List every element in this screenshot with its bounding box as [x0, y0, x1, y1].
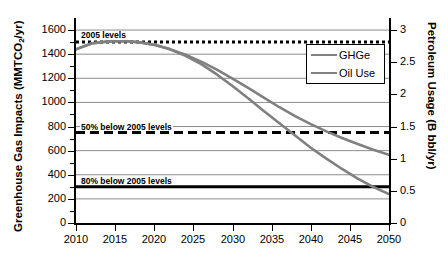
y-axis-left-minor-tick — [70, 211, 74, 212]
y-axis-right-tick — [391, 94, 397, 95]
y-axis-right-tick-label: 0 — [400, 217, 430, 228]
x-axis-tick — [311, 225, 312, 231]
y-axis-left-tick — [68, 102, 74, 103]
y-axis-right-tick-label: 1 — [400, 153, 430, 164]
y-axis-left-tick — [68, 78, 74, 79]
x-axis-tick — [193, 225, 194, 231]
x-axis-tick — [233, 225, 234, 231]
chart-figure: Greenhouse Gas Impacts (MMTCO2/yr) Petro… — [0, 0, 448, 265]
y-axis-left-minor-tick — [70, 114, 74, 115]
y-axis-left-tick-label: 600 — [14, 145, 66, 156]
x-axis-tick — [154, 225, 155, 231]
y-axis-right-tick-label: 2 — [400, 88, 430, 99]
y-axis-left-tick-label: 800 — [14, 121, 66, 132]
y-axis-right-tick-label: 0.5 — [400, 185, 430, 196]
y-axis-left-tick-label: 1200 — [14, 72, 66, 83]
y-axis-left-tick-label: 1400 — [14, 48, 66, 59]
y-axis-left-tick-label: 1600 — [14, 24, 66, 35]
x-axis-tick — [76, 225, 77, 231]
y-axis-left-tick — [68, 223, 74, 224]
y-axis-right-tick-label: 1.5 — [400, 121, 430, 132]
x-axis-tick — [350, 225, 351, 231]
x-axis-tick — [272, 225, 273, 231]
y-axis-left-minor-tick — [70, 163, 74, 164]
y-axis-right-tick — [391, 62, 397, 63]
x-axis-tick-label: 2050 — [365, 234, 413, 245]
y-axis-left-tick — [68, 199, 74, 200]
legend-item-ghge[interactable]: GHGe — [307, 46, 384, 64]
y-axis-left-minor-tick — [70, 66, 74, 67]
y-axis-right-tick — [391, 223, 397, 224]
legend-swatch-oil-use — [311, 72, 337, 74]
y-axis-left-tick-label: 400 — [14, 169, 66, 180]
y-axis-left-tick-label: 0 — [14, 217, 66, 228]
y-axis-left-tick — [68, 30, 74, 31]
y-axis-left-minor-tick — [70, 187, 74, 188]
y-axis-left-tick-label: 200 — [14, 193, 66, 204]
chart-legend: GHGe Oil Use — [306, 44, 385, 84]
x-axis-tick — [115, 225, 116, 231]
y-axis-right-tick — [391, 30, 397, 31]
y-axis-left-tick — [68, 151, 74, 152]
reference-line-label: 50% below 2005 levels — [80, 123, 173, 132]
legend-item-oil-use[interactable]: Oil Use — [307, 64, 384, 82]
y-axis-left-tick-label: 1000 — [14, 96, 66, 107]
y-axis-right-tick-label: 3 — [400, 24, 430, 35]
y-axis-right-tick — [391, 127, 397, 128]
y-axis-left-minor-tick — [70, 42, 74, 43]
legend-label-ghge: GHGe — [339, 48, 370, 62]
y-axis-right-tick-label: 2.5 — [400, 56, 430, 67]
y-axis-left-tick — [68, 54, 74, 55]
y-axis-right-tick — [391, 159, 397, 160]
y-axis-left-title-subscript: 2 — [17, 38, 26, 42]
y-axis-left-minor-tick — [70, 90, 74, 91]
reference-line-label: 80% below 2005 levels — [80, 177, 173, 186]
legend-swatch-ghge — [311, 54, 337, 56]
y-axis-right-tick — [391, 191, 397, 192]
y-axis-left-tick — [68, 127, 74, 128]
legend-label-oil-use: Oil Use — [339, 66, 375, 80]
reference-line-label: 2005 levels — [80, 31, 127, 40]
y-axis-left-tick — [68, 175, 74, 176]
y-axis-left-minor-tick — [70, 139, 74, 140]
x-axis-tick — [389, 225, 390, 231]
